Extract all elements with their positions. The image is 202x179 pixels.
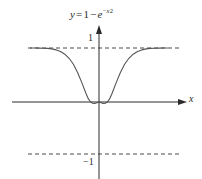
exponent-power: 2 bbox=[110, 7, 113, 14]
equation-equals: = bbox=[75, 8, 83, 20]
x-axis-label: x bbox=[189, 94, 193, 104]
plot-canvas bbox=[0, 0, 202, 179]
y-axis-arrowhead bbox=[96, 25, 102, 34]
equation-exponent: −x2 bbox=[103, 7, 113, 14]
equation-minus: − bbox=[89, 8, 97, 20]
function-plot-figure: y=1−e−x2 1 −1 x bbox=[0, 0, 202, 179]
y-tick-label-negative-one: −1 bbox=[83, 157, 94, 167]
y-tick-label-positive-one: 1 bbox=[88, 33, 93, 43]
equation-title: y=1−e−x2 bbox=[70, 8, 113, 20]
x-axis-arrowhead bbox=[178, 99, 187, 105]
